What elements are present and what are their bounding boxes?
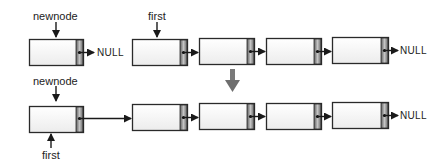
list-node-bottom-3 [267, 104, 332, 130]
list-node-top-2 [200, 39, 266, 65]
list-node-top-4 [333, 38, 399, 64]
list-node-bottom-2 [200, 104, 266, 130]
null-label-tail-bottom: NULL [400, 110, 427, 122]
null-label-newnode-top: NULL [97, 47, 124, 59]
list-node-top-3 [267, 39, 332, 65]
null-label-tail-top: NULL [400, 45, 427, 57]
first-label-bottom: first [42, 149, 60, 161]
newnode-label-top: newnode [33, 10, 78, 22]
transition-down-arrow [225, 69, 240, 92]
list-node-bottom-4 [333, 103, 399, 129]
first-label-top: first [148, 10, 166, 22]
list-node-top-1 [133, 40, 199, 66]
list-node-bottom-1 [133, 105, 199, 131]
newnode-label-bottom: newnode [33, 75, 78, 87]
newnode-node-top [30, 40, 95, 66]
newnode-node-bottom [30, 107, 132, 133]
